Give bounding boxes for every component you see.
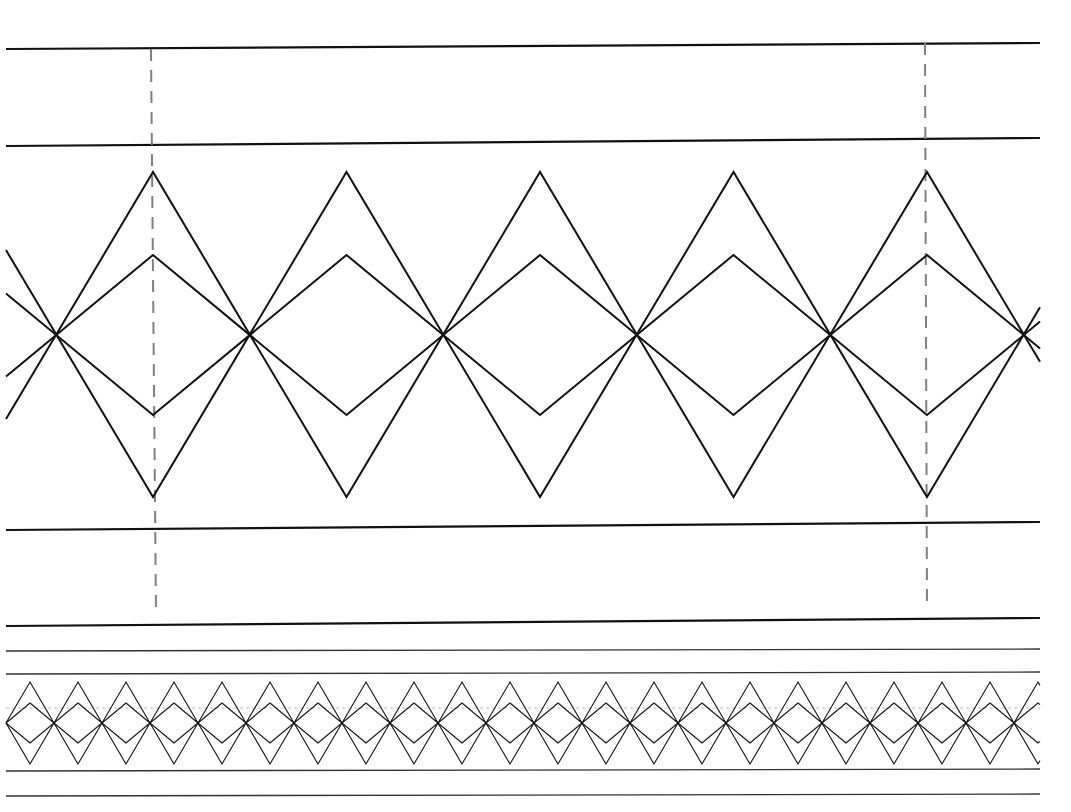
rail-line [6,794,1040,796]
inner-strand-b [6,703,1040,743]
rail-line [6,618,1040,626]
braid-pattern-diagram [0,0,1071,812]
rail-line [6,43,1040,49]
outer-strand-b [6,172,1040,497]
large-section-rails [6,43,1040,626]
rail-line [6,649,1040,651]
inner-strand-a [6,255,1040,415]
rail-line [6,672,1040,674]
rail-line [6,769,1040,771]
small-section-rails [6,649,1040,796]
rail-line [6,138,1040,146]
outer-strand-a [6,172,1040,497]
outer-strand-a [6,682,1040,764]
outer-strand-b [6,682,1040,764]
small-section-braid-strands [6,682,1040,764]
inner-strand-b [6,255,1040,415]
rail-line [6,522,1040,530]
inner-strand-a [6,703,1040,743]
dashed-guide-line [925,43,927,610]
large-section-braid-strands [6,172,1040,497]
